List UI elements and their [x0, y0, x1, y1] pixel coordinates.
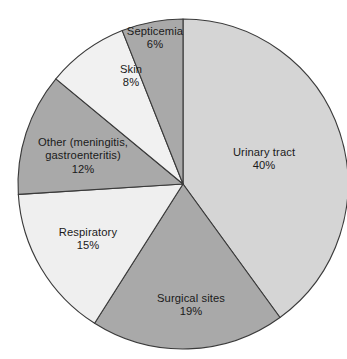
pie-chart-canvas [0, 0, 347, 359]
pie-chart-figure: Urinary tract40%Surgical sites19%Respira… [0, 0, 347, 359]
pie-slices-group [18, 19, 347, 349]
